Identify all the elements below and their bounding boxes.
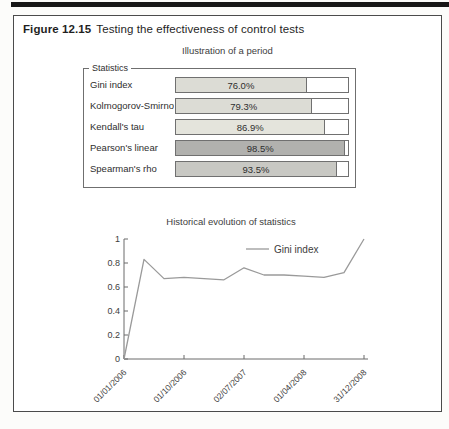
panel-subtitle: Illustration of a period [14,45,441,56]
series-gini-index [124,239,364,359]
progress-fill: 76.0% [176,78,307,92]
x-tick-label: 01/04/2008 [271,367,308,404]
groupbox-legend: Statistics [89,62,131,74]
chart-axes: 00.20.40.60.8101/01/200601/10/200602/07/… [91,234,368,404]
progress-bar: 86.9% [175,119,349,135]
line-chart: Historical evolution of statistics Gini … [14,211,443,413]
chart-title: Historical evolution of statistics [166,216,296,227]
progress-fill: 86.9% [176,120,325,134]
y-tick-label: 0.6 [107,282,120,292]
x-tick-label: 31/12/2008 [331,367,368,404]
progress-bar: 79.3% [175,98,349,114]
y-tick-label: 1 [115,234,120,244]
stat-row: Spearman's rho93.5% [84,161,355,177]
figure-number: Figure 12.15 [23,23,91,35]
x-tick-label: 01/10/2006 [151,367,188,404]
stat-row: Kendall's tau86.9% [84,119,355,135]
progress-value: 79.3% [230,101,257,112]
progress-value: 86.9% [237,122,264,133]
stat-label: Kendall's tau [90,119,174,135]
statistics-groupbox: Statistics Gini index76.0%Kolmogorov-Smi… [83,68,356,188]
y-tick-label: 0.8 [107,258,120,268]
x-tick-label: 02/07/2007 [211,367,248,404]
progress-value: 98.5% [247,143,274,154]
figure-caption: Figure 12.15Testing the effectiveness of… [23,23,304,35]
chart-plot [124,239,364,359]
stat-row: Gini index76.0% [84,77,355,93]
figure-title: Testing the effectiveness of control tes… [96,23,304,35]
progress-bar: 98.5% [175,140,349,156]
stat-label: Pearson's linear [90,140,174,156]
stat-row: Kolmogorov-Smirnov79.3% [84,98,355,114]
stat-row: Pearson's linear98.5% [84,140,355,156]
progress-value: 76.0% [227,80,254,91]
stat-label: Spearman's rho [90,161,174,177]
x-tick-label: 01/01/2006 [91,367,128,404]
progress-fill: 98.5% [176,141,345,155]
progress-bar: 93.5% [175,161,349,177]
progress-value: 93.5% [242,164,269,175]
progress-fill: 79.3% [176,99,312,113]
stat-label: Gini index [90,77,174,93]
y-tick-label: 0.2 [107,330,120,340]
progress-bar: 76.0% [175,77,349,93]
top-rule [11,2,449,7]
figure-box: Figure 12.15Testing the effectiveness of… [13,15,442,412]
progress-fill: 93.5% [176,162,337,176]
y-tick-label: 0 [115,354,120,364]
y-tick-label: 0.4 [107,306,120,316]
legend-label: Gini index [274,244,318,255]
stat-label: Kolmogorov-Smirnov [90,98,174,114]
